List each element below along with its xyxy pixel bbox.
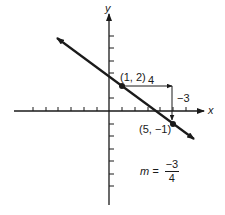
x-axis-label: x: [208, 105, 214, 116]
point-label-5-neg1: (5, −1): [139, 124, 171, 135]
slope-prefix: m =: [140, 166, 159, 177]
point-1-2: [119, 83, 125, 89]
slope-numerator: −3: [165, 159, 180, 172]
coordinate-plane: [0, 0, 225, 215]
rise-label: −3: [177, 93, 190, 104]
y-axis: [109, 14, 114, 205]
y-axis-label: y: [105, 3, 111, 14]
slope-fraction: −3 4: [165, 159, 180, 184]
run-label: 4: [148, 75, 154, 86]
slope-denominator: 4: [169, 172, 175, 184]
point-label-1-2: (1, 2): [120, 72, 146, 83]
slope-formula: m = −3 4: [140, 159, 179, 184]
